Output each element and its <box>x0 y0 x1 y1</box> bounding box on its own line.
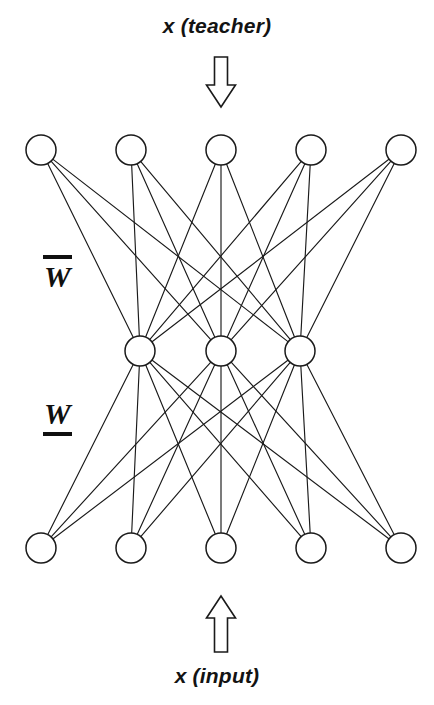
node-bottom-layer-2 <box>116 533 146 563</box>
edge-top-1-0 <box>132 164 140 337</box>
node-top-layer-5 <box>386 135 416 165</box>
edge-bottom-0-4 <box>151 359 390 539</box>
network-canvas <box>0 0 434 705</box>
weight-label-bottom: W <box>43 399 72 429</box>
edge-bottom-0-2 <box>145 364 215 535</box>
node-bottom-layer-1 <box>26 533 56 563</box>
edge-top-2-2 <box>226 163 295 338</box>
teacher-arrow-icon <box>207 57 236 107</box>
edge-bottom-0-1 <box>132 365 140 534</box>
edge-bottom-2-1 <box>140 362 291 538</box>
node-middle-layer-2 <box>206 336 236 366</box>
edge-bottom-1-4 <box>230 361 391 537</box>
edges-bottom-layer <box>47 359 394 539</box>
edge-bottom-2-2 <box>226 364 295 535</box>
arrow-up-icon <box>207 596 236 652</box>
edge-top-3-1 <box>227 163 306 338</box>
edge-bottom-0-3 <box>149 362 302 538</box>
weight-label-top: W <box>43 262 72 292</box>
edge-top-3-2 <box>301 164 310 337</box>
edge-bottom-2-3 <box>301 365 310 534</box>
network-diagram: x (teacher) W W x (input) <box>0 0 434 705</box>
arrow-down-icon <box>207 57 236 107</box>
node-top-layer-1 <box>26 135 56 165</box>
node-top-layer-3 <box>206 135 236 165</box>
weight-symbol-bottom: W <box>43 399 72 429</box>
edge-top-2-0 <box>145 163 216 338</box>
edge-top-4-0 <box>151 159 390 343</box>
edge-bottom-1-3 <box>227 364 305 536</box>
edge-bottom-1-1 <box>137 364 215 536</box>
input-arrow-icon <box>207 596 236 652</box>
node-top-layer-2 <box>116 135 146 165</box>
node-bottom-layer-4 <box>296 533 326 563</box>
edge-top-1-1 <box>137 163 216 338</box>
edge-bottom-1-0 <box>50 361 211 537</box>
weight-symbol-top: W <box>43 262 72 292</box>
node-bottom-layer-5 <box>386 533 416 563</box>
edges-top-layer <box>47 159 395 343</box>
edge-top-4-1 <box>230 160 391 340</box>
input-caption: x (input) <box>0 664 434 688</box>
node-top-layer-4 <box>296 135 326 165</box>
node-bottom-layer-3 <box>206 533 236 563</box>
node-middle-layer-3 <box>285 336 315 366</box>
edge-top-0-1 <box>50 160 211 340</box>
edge-top-1-2 <box>140 161 291 341</box>
edge-top-3-0 <box>149 161 302 341</box>
node-middle-layer-1 <box>125 336 155 366</box>
